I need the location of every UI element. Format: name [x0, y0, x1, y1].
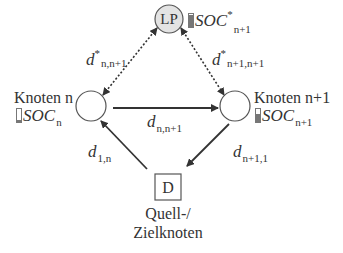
depot-label: D	[155, 179, 181, 197]
knoten-n1-node	[220, 91, 250, 121]
edge-d-n1-1	[187, 124, 229, 166]
edge-label-d-n-n1: dn,n+1	[147, 113, 182, 134]
knoten-n-soc-label: SOCn	[16, 107, 62, 128]
edge-label-d-star-n-n1: d*n,n+1	[86, 48, 126, 69]
edge-label-d-n1-1: dn+1,1	[233, 143, 268, 164]
depot-caption-line2: Zielknoten	[113, 224, 223, 242]
battery-icon	[255, 108, 261, 123]
knoten-n1-soc-label: SOCn+1	[255, 107, 312, 128]
lp-soc-label: SOC*n+1	[188, 9, 251, 35]
lp-label: LP	[155, 11, 183, 28]
battery-icon	[16, 108, 22, 123]
depot-caption-line1: Quell-/	[118, 205, 218, 223]
edge-label-d-star-n1-n1: d*n+1,n+1	[212, 48, 264, 69]
knoten-n-title: Knoten n	[14, 90, 73, 106]
battery-icon	[188, 13, 194, 28]
knoten-n1-title: Knoten n+1	[254, 90, 330, 106]
edge-label-d-1-n: d1,n	[88, 143, 111, 164]
knoten-n-node	[76, 91, 106, 121]
